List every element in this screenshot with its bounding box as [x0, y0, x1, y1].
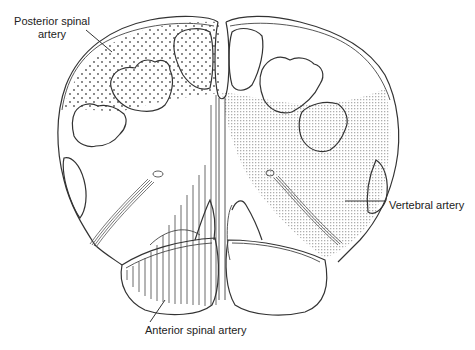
label-line-2: artery [6, 28, 98, 41]
right-inferior-olive [227, 201, 262, 260]
label-posterior-spinal-artery: Posterior spinal artery [6, 15, 98, 41]
vertebral-territory [222, 88, 390, 258]
left-pyramid [121, 238, 218, 315]
right-pyramid [226, 240, 327, 315]
left-nerve-root [90, 171, 163, 247]
anterior-spinal-territory [127, 95, 216, 306]
label-anterior-spinal-artery: Anterior spinal artery [145, 324, 247, 337]
left-lateral-region [63, 158, 86, 218]
leader-anterior-spinal [150, 300, 165, 322]
label-line-1: Posterior spinal [6, 15, 98, 28]
label-vertebral-artery: Vertebral artery [389, 199, 464, 212]
right-gracile-nucleus [229, 29, 263, 91]
medulla-cross-section-diagram [0, 0, 475, 350]
